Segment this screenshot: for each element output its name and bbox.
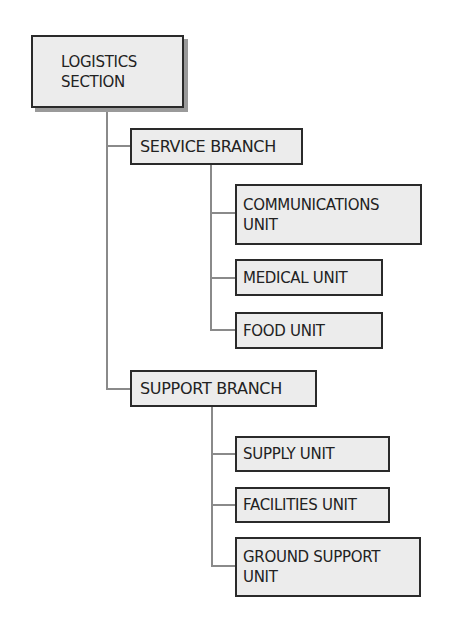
service-branch-box: SERVICE BRANCH bbox=[130, 128, 303, 165]
communications-label-line1: COMMUNICATIONS bbox=[243, 195, 379, 215]
support-branch-label: SUPPORT BRANCH bbox=[140, 379, 282, 399]
connector-facilities-horizontal bbox=[211, 504, 236, 506]
connector-root-vertical bbox=[106, 107, 108, 390]
connector-support-vertical bbox=[211, 407, 213, 567]
connector-food-horizontal bbox=[210, 329, 236, 331]
connector-support-horizontal bbox=[106, 388, 131, 390]
communications-unit-box: COMMUNICATIONS UNIT bbox=[235, 184, 422, 245]
logistics-section-box: LOGISTICS SECTION bbox=[31, 35, 184, 108]
ground-support-label-line1: GROUND SUPPORT bbox=[243, 547, 380, 567]
supply-unit-label: SUPPLY UNIT bbox=[243, 444, 334, 464]
root-label-line1: LOGISTICS bbox=[61, 52, 137, 72]
connector-service-horizontal bbox=[106, 145, 131, 147]
connector-medical-horizontal bbox=[210, 277, 236, 279]
connector-service-vertical bbox=[210, 164, 212, 330]
support-branch-box: SUPPORT BRANCH bbox=[130, 370, 317, 407]
supply-unit-box: SUPPLY UNIT bbox=[235, 436, 390, 472]
medical-unit-label: MEDICAL UNIT bbox=[243, 268, 347, 288]
communications-label-line2: UNIT bbox=[243, 215, 379, 235]
connector-comm-horizontal bbox=[210, 212, 236, 214]
service-branch-label: SERVICE BRANCH bbox=[140, 137, 276, 157]
facilities-unit-box: FACILITIES UNIT bbox=[235, 487, 390, 523]
medical-unit-box: MEDICAL UNIT bbox=[235, 259, 383, 296]
food-unit-box: FOOD UNIT bbox=[235, 312, 383, 349]
connector-supply-horizontal bbox=[211, 453, 236, 455]
connector-ground-horizontal bbox=[211, 565, 236, 567]
root-label-line2: SECTION bbox=[61, 72, 137, 92]
facilities-unit-label: FACILITIES UNIT bbox=[243, 495, 357, 515]
ground-support-label-line2: UNIT bbox=[243, 567, 380, 587]
ground-support-unit-box: GROUND SUPPORT UNIT bbox=[235, 537, 421, 597]
food-unit-label: FOOD UNIT bbox=[243, 321, 325, 341]
